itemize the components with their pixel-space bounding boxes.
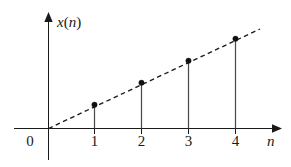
data-point-marker [92,102,97,107]
x-tick-label-4: 4 [232,133,240,149]
data-point-marker [233,36,238,41]
x-tick-label-2: 2 [138,133,146,149]
data-point-marker [186,58,191,63]
envelope-dashed-line [49,29,261,129]
figure-root: 0 1 2 3 4 x(n) n [0,0,291,167]
y-axis-label-index: n [69,14,77,30]
y-axis-arrow-icon [44,12,52,22]
y-axis-label-close: ) [76,14,81,31]
x-tick-label-3: 3 [185,133,193,149]
stem-plot-svg: 0 1 2 3 4 x(n) n [0,0,291,167]
x-tick-label-1: 1 [91,133,99,149]
x-axis-label: n [267,133,275,149]
y-axis-label: x(n) [56,14,81,31]
data-point-marker [139,80,144,85]
x-tick-label-0: 0 [26,133,34,149]
x-axis-arrow-icon [272,124,282,132]
